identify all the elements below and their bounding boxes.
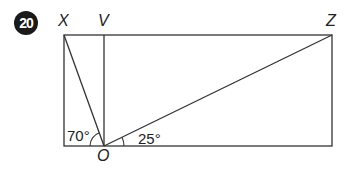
point-label-V: V (98, 12, 109, 30)
angle-arc-25 (122, 137, 124, 146)
angle-label-25: 25° (138, 130, 161, 147)
geometry-figure (0, 0, 359, 169)
point-label-O: O (97, 147, 109, 165)
point-label-Z: Z (326, 12, 336, 30)
point-label-X: X (58, 12, 69, 30)
angle-label-70: 70° (67, 127, 90, 144)
angle-arc-70 (90, 133, 99, 146)
